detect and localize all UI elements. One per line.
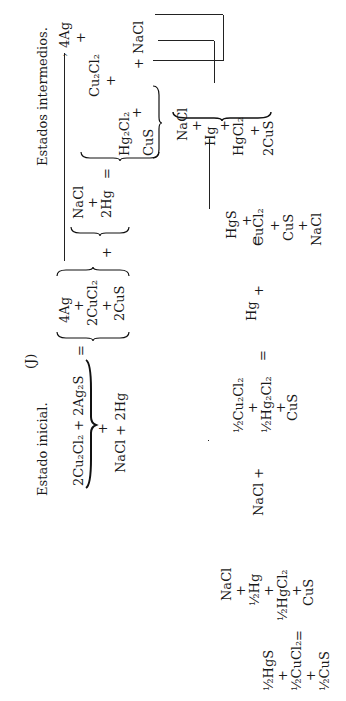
group5-item-cucl2: CuCl₂ [252,208,265,246]
group1-item-4ag: 4Ag [58,297,71,323]
initial-line2: NaCl + 2Hg [114,393,127,473]
hg-line-vertical [208,440,209,441]
group4-plus-2: + [218,120,231,131]
plus-1: + [100,247,113,258]
group7-item-nacl: NaCl [220,568,233,601]
feedback-line-1 [153,60,223,61]
group2-equals: = [100,168,113,179]
hg-label: Hg [245,301,258,321]
group4-plus-1: + [190,120,203,131]
hg-line-down [209,208,210,209]
group2-brace-left [70,226,130,236]
group8-item-cus: ½CuS [318,651,331,691]
group3-item-hg2cl2: Hg₂Cl₂ [118,112,131,156]
group2-item-2hg: 2Hg [100,190,113,218]
group7-item-hg: ½Hg [248,574,261,606]
group3-plus-top: + [74,32,87,43]
rotated-diagram: (J) Estado inicial. Estados intermedios.… [0,0,346,701]
group5-item-nacl: NaCl [310,213,323,246]
page: (J) Estado inicial. Estados intermedios.… [0,0,346,701]
plus-nacl: + NaCl [132,21,145,69]
nacl-plus: NaCl + [252,468,265,516]
group5-plus-3: + [296,220,309,231]
group4-item-hg: Hg [204,126,217,146]
arrow-line-4ag [64,53,65,261]
group7-item-cus: CuS [302,579,315,606]
group3-plus-2: + [130,107,143,118]
group4-item-2cus: 2CuS [262,121,275,157]
estado-inicial-label: Estado inicial. [36,402,49,496]
group5-item-hgs: HgS [225,210,238,239]
estados-intermedios-label: Estados intermedios. [36,27,49,166]
initial-brace [85,359,97,489]
group7-plus-1: + [234,585,247,596]
group3-item-cu2cl2: Cu₂Cl₂ [88,54,101,97]
group5-plus-2: + [268,220,281,231]
group8-item-hgs: ½HgS [262,650,275,691]
feedback-line-2 [223,15,224,61]
top-product-4ag: 4Ag [58,22,71,48]
feedback-line-5 [155,14,223,15]
feedback-line-4 [214,41,215,83]
group1-plus-1: + [72,300,85,311]
group5-item-cus: CuS [282,214,295,241]
group4-item-hgcl2: HgCl₂ [232,117,245,156]
group6-item-cu2cl2: ½Cu₂Cl₂ [232,378,245,433]
initial-line1: 2Cu₂Cl₂ + 2Ag₂S [72,376,85,486]
group1-item-cucl2: 2CuCl₂ [86,280,99,326]
figure-label: (J) [24,354,37,369]
group6-item-hg2cl2: ½Hg₂Cl₂ [260,376,273,433]
group7-item-hgcl2: ½HgCl₂ [276,569,289,621]
group4-item-nacl: NaCl [176,108,189,141]
hg-line-horizontal [209,139,210,209]
equals-3: = [256,350,269,361]
group1-brace-right [56,267,130,277]
group1-item-cus: 2CuS [113,286,126,322]
group8-plus-1: + [276,670,289,681]
initial-equals: = [74,345,87,356]
arrow-head-4ag: › [58,53,71,57]
group8-plus-2: + [304,670,317,681]
group6-item-cus: CuS [286,394,299,421]
hg-plus: + [252,285,265,296]
equals-4: = [292,630,305,641]
group8-item-cucl2: ½CuCl₂ [290,641,303,691]
group6-plus-1: + [246,402,259,413]
group4-plus-3: + [248,125,261,136]
group2-item-nacl: NaCl [72,186,85,219]
group3-brace-right [152,85,162,159]
group3-plus-1: + [104,75,117,86]
group2-plus: + [86,197,99,208]
group7-plus-2: + [262,585,275,596]
feedback-line-3 [158,40,214,41]
group1-brace-left [56,331,130,341]
